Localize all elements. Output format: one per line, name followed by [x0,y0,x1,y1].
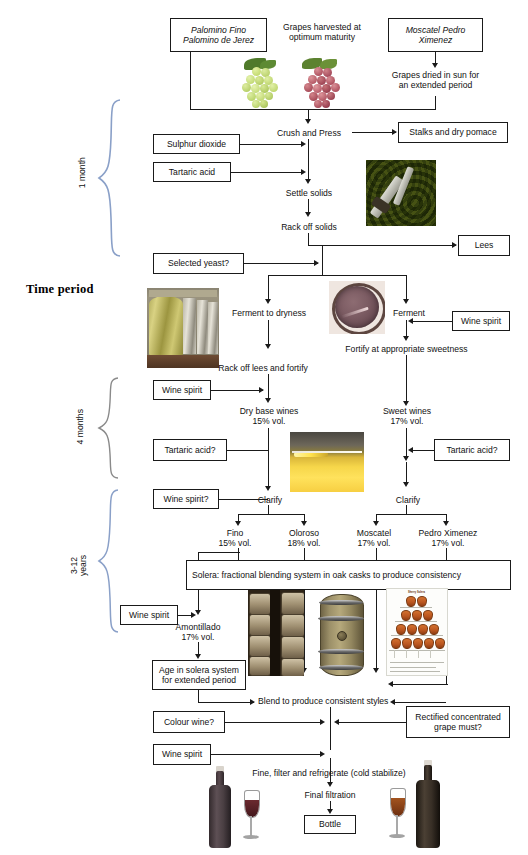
connector [225,722,323,723]
label-oloroso: Oloroso 18% vol. [274,528,334,548]
connector [238,514,304,515]
connector [198,552,240,553]
arrowhead [373,521,379,526]
box-tartaric-acid[interactable]: Tartaric acid [153,162,231,182]
arrowhead [265,486,271,491]
connector [352,132,396,133]
arrowhead [403,336,409,341]
sherry-bottle-right-photo [412,760,444,848]
oak-cask-photo [316,591,366,677]
arrowhead [301,521,307,526]
connector [268,320,269,346]
label-sweet-wines: Sweet wines 17% vol. [366,406,448,426]
connector [392,684,448,685]
arrowhead [265,344,271,349]
connector [435,96,436,109]
arrowhead [392,129,397,135]
arrowhead [195,654,201,659]
connector [406,428,407,456]
arrowhead [452,242,457,248]
time-period-label-3-12-years: 3-12 years [70,530,89,600]
box-tartaric-acid-left[interactable]: Tartaric acid? [153,439,227,461]
time-period-label-1-month: 1 month [78,138,87,208]
red-grapes-photo [296,58,352,110]
box-wine-spirit-rack-fortify[interactable]: Wine spirit [153,380,211,400]
arrowhead [403,456,409,461]
connector [268,275,269,301]
connector [406,462,407,484]
arrowhead [235,521,241,526]
sherry-bottle-left-photo [205,766,235,848]
label-pedro-ximenez: Pedro Ximenez 17% vol. [410,528,486,548]
box-lees[interactable]: Lees [458,235,510,256]
arrowhead [403,299,409,304]
label-settle-solids: Settle solids [274,188,344,198]
green-grapes-photo [232,58,288,110]
time-period-axis-title: Time period [26,282,94,297]
connector [190,52,191,109]
fermentation-tanks-photo [147,288,219,368]
box-sulphur-dioxide[interactable]: Sulphur dioxide [153,134,240,154]
box-stalks-and-dry-pomace[interactable]: Stalks and dry pomace [398,122,508,143]
arrowhead [390,699,395,705]
sherry-production-flowchart: Time period 1 month 4 months 3-12 years … [0,0,528,855]
solera-pyramid-diagram: Sherry Solera [386,588,448,676]
box-wine-spirit-fortify[interactable]: Wine spirit [452,311,510,331]
arrowhead [408,318,413,324]
box-bottle[interactable]: Bottle [304,815,356,834]
arrowhead [305,119,311,124]
time-period-label-4-months: 4 months [76,390,85,464]
connector [322,245,323,275]
arrowhead [265,398,271,403]
arrowhead [314,260,319,266]
connector [227,450,268,451]
connector [330,758,331,784]
connector [304,590,305,670]
connector [308,233,309,245]
connector [330,726,331,750]
connector [376,548,377,560]
box-rectified-concentrated-grape-must[interactable]: Rectified concentrated grape must? [406,706,510,738]
arrowhead [408,447,413,453]
connector [198,690,199,702]
arrowhead [327,782,333,787]
arrowhead [301,169,306,175]
connector [308,139,309,181]
box-age-in-solera-system[interactable]: Age in solera system for extended period [152,660,246,690]
box-wine-spirit-question[interactable]: Wine spirit? [153,489,219,509]
box-solera-system[interactable]: Solera: fractional blending system in oa… [186,560,511,590]
connector [412,321,452,322]
label-blend-to-produce-consistent-styles: Blend to produce consistent styles [258,696,394,706]
brace-1-month [96,98,124,258]
golden-wine-photo [290,432,364,492]
label-dry-base-wines: Dry base wines 15% vol. [228,406,310,426]
fermenting-must-vat-photo [329,281,385,334]
connector [231,172,302,173]
brace-4-months [96,376,122,480]
connector [406,275,407,301]
arrowhead [373,668,379,673]
label-fine-filter-refrigerate: Fine, filter and refrigerate (cold stabi… [243,768,415,778]
connector [198,590,199,612]
arrowhead [388,681,393,687]
connector [406,505,407,514]
label-rack-off-lees-and-fortify: Rack off lees and fortify [200,363,326,373]
connector [240,144,302,145]
connector [304,548,305,560]
label-crush-and-press: Crush and Press [265,128,353,138]
connector [268,374,269,400]
connector [376,514,446,515]
box-wine-spirit-final[interactable]: Wine spirit [153,744,211,765]
box-tartaric-acid-right[interactable]: Tartaric acid? [434,439,510,461]
connector [211,754,323,755]
label-clarify-dry: Clarify [246,495,294,505]
arrowhead [403,482,409,487]
box-selected-yeast[interactable]: Selected yeast? [153,253,244,274]
label-rack-off-solids: Rack off solids [270,222,348,232]
connector [238,548,239,560]
label-final-filtration: Final filtration [288,790,372,800]
box-colour-wine[interactable]: Colour wine? [153,711,225,733]
box-moscatel-px-varieties[interactable]: Moscatel Pedro Ximenez [388,18,483,52]
label-amontillado: Amontillado 17% vol. [162,622,234,642]
box-palomino-varieties[interactable]: Palomino Fino Palomino de Jerez [170,18,267,52]
